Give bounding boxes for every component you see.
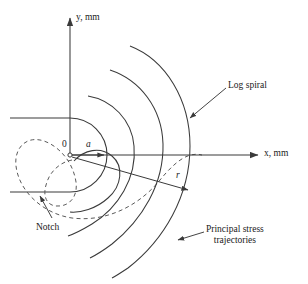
principal-stress-leader bbox=[178, 232, 204, 240]
principal-stress-label-line2: trajectories bbox=[206, 235, 264, 246]
notch-label-text: Notch bbox=[36, 222, 59, 232]
principal-stress-label: Principal stress trajectories bbox=[206, 224, 264, 246]
principal-stress-trajectories bbox=[68, 46, 190, 278]
radius-label-text: r bbox=[176, 170, 180, 180]
log-spiral-label: Log spiral bbox=[228, 80, 267, 91]
log-spiral-leader bbox=[190, 88, 226, 118]
y-axis-label: y, mm bbox=[76, 12, 100, 23]
x-axis-label-text: x, mm bbox=[264, 148, 288, 158]
y-axis-label-text: y, mm bbox=[76, 12, 100, 22]
notch-radius-label: a bbox=[86, 139, 91, 150]
origin-point bbox=[68, 153, 72, 157]
principal-stress-label-line1: Principal stress bbox=[206, 224, 264, 235]
notch-label: Notch bbox=[36, 222, 59, 233]
trajectory-arc-1 bbox=[70, 150, 120, 212]
log-spiral-dashed bbox=[16, 140, 202, 219]
x-axis-label: x, mm bbox=[264, 148, 288, 159]
radius-arrow bbox=[72, 157, 188, 190]
notch-radius-label-text: a bbox=[86, 139, 91, 149]
log-spiral-label-text: Log spiral bbox=[228, 80, 267, 90]
trajectory-arc-3 bbox=[90, 70, 163, 258]
trajectory-arc-4 bbox=[112, 46, 190, 278]
radius-label: r bbox=[176, 170, 180, 181]
origin-label-text: 0 bbox=[62, 139, 67, 149]
origin-label: 0 bbox=[62, 139, 67, 150]
log-spiral-curve bbox=[16, 140, 202, 219]
trajectory-arc-2 bbox=[68, 96, 134, 236]
